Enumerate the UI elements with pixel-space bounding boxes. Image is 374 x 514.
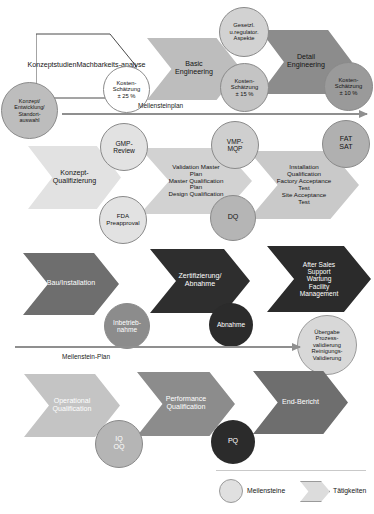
activity-label-line2: Engineering [175,69,213,77]
activity-label-line2: Qualifizierung [53,178,96,186]
diagram-canvas: Konzeptstudien Machbarkeits- analyse Bas… [0,0,374,514]
milestone-konzept-entwicklung-standortauswahl[interactable]: Konzept/ Entwicklung/ Standort- auswahl [1,82,58,139]
activity-label-line2: Abnahme [179,281,222,289]
milestone-label-line3: Standort- [14,111,44,117]
milestone-label-line2: Schätzung [335,83,362,89]
milestone-iq-oq[interactable]: IQ OQ [95,420,143,468]
activity-label-line5: Design Qualification [168,191,223,198]
activity-label-line2: Support [300,268,339,275]
activity-label-line2: Qualification [52,406,91,414]
activity-label-line1: Konzeptstudien [28,61,77,71]
activity-after-sales-support[interactable]: After Sales Support Wartung Facility Man… [267,246,371,312]
milestone-label-line2: Prozess- [312,335,343,341]
milestone-gesetzl-regulator-aspekte[interactable]: Gesetzl. u.regulator. Aspekte [219,7,269,57]
activity-label-line1: After Sales [300,261,339,268]
milestone-inbetriebnahme[interactable]: Inbetrieb- nahme [104,303,150,349]
milestone-label-line1: DQ [228,214,239,222]
milestone-vmp-mqp[interactable]: VMP- MQP [211,121,259,169]
activity-label-line1: Bau/Installation [47,280,96,288]
milestone-label-line2: SAT [339,144,352,152]
milestone-label-line2: Review [113,147,135,154]
milestone-label-line3: Aspekte [229,35,258,41]
milestone-label-line2: Preapproval [106,220,139,227]
milestone-label-line1: PQ [228,438,238,446]
timeline-label-meilenstein-plan: Meilenstein-Plan [62,353,110,360]
milestone-label-line4: Reinigungs- [312,348,343,354]
legend-activity-icon [300,481,330,502]
legend-activity-label: Tätigkeiten [333,487,366,494]
legend-milestone-icon [219,479,243,503]
activity-label-line4: Facility [300,283,339,290]
legend-milestone-label: Meilensteine [247,487,285,494]
activity-label-line2: Qualification [166,404,207,412]
milestone-fat-sat[interactable]: FAT SAT [322,120,370,168]
milestone-kostenschaetzung-10[interactable]: Kosten- Schätzung ± 10 % [324,62,373,111]
milestone-label-line4: auswahl [14,117,44,123]
milestone-gmp-review[interactable]: GMP- Review [100,123,148,171]
milestone-label-line3: ± 25 % [113,93,140,99]
milestone-label-line1: Inbetrieb- [113,319,141,326]
activity-label-line3: Wartung [300,275,339,282]
activity-label-line2: Engineering [287,62,325,70]
milestone-label-line2: MQP [227,145,243,152]
timeline-arrow-meilensteinplan [62,113,367,115]
milestone-uebergabe-prozessvalidierung[interactable]: Übergabe Prozess- validierung Reinigungs… [297,315,357,375]
milestone-fda-preapproval[interactable]: FDA Preapproval [99,196,147,244]
activity-label-line1: End-Bericht [282,399,319,407]
timeline-arrow-meilenstein-plan [15,346,300,348]
milestone-pq[interactable]: PQ [211,420,255,464]
milestone-label-line2: Schätzung [113,86,140,92]
milestone-label-line2: Schätzung [231,84,258,90]
milestone-label-line5: Validierung [312,355,343,361]
legend-divider [216,470,366,471]
activity-bau-installation[interactable]: Bau/Installation [23,253,119,315]
milestone-label-line1: GMP- [113,140,135,147]
milestone-label-line1: Gesetzl. [229,22,258,28]
milestone-label-line3: ± 10 % [335,90,362,96]
milestone-label-line2: OQ [113,444,124,452]
milestone-label-line3: ± 15 % [231,91,258,97]
milestone-label-line1: Abnahme [217,321,245,328]
milestone-label-line1: VMP- [227,138,243,145]
activity-label-line5: Management [300,290,339,297]
milestone-kostenschaetzung-15[interactable]: Kosten- Schätzung ± 15 % [220,63,269,112]
timeline-label-meilensteinplan: Meilensteinplan [138,102,183,109]
milestone-label-line2: Entwicklung/ [14,104,44,110]
milestone-label-line2: nahme [113,326,141,333]
activity-end-bericht[interactable]: End-Bericht [253,371,348,434]
milestone-abnahme[interactable]: Abnahme [209,303,253,347]
activity-label-line6: Test [277,199,331,206]
milestone-dq[interactable]: DQ [210,195,256,241]
